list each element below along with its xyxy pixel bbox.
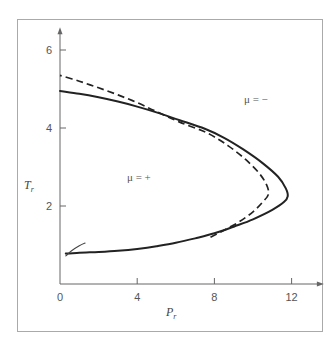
x-tick-label: 12 xyxy=(285,291,297,303)
x-tick-label: 0 xyxy=(57,291,63,303)
annotation-mu-positive: μ = + xyxy=(127,171,151,183)
x-tick-label: 4 xyxy=(134,291,140,303)
x-tick-label: 8 xyxy=(211,291,217,303)
chart: 04812246 Tr Pr μ = − μ = + xyxy=(0,0,334,346)
y-tick-label: 4 xyxy=(46,122,52,134)
y-tick-label: 2 xyxy=(46,200,52,212)
annotation-mu-negative: μ = − xyxy=(244,93,268,105)
y-tick-label: 6 xyxy=(46,44,52,56)
